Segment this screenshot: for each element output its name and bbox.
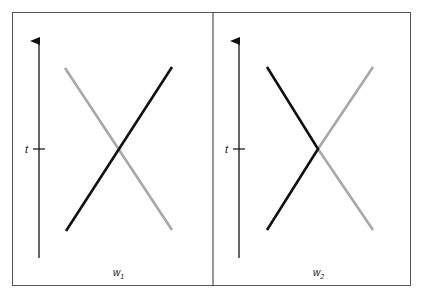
panel-right: t w2 (225, 41, 373, 280)
time-axis-label: t (25, 143, 29, 155)
panel-label-w2: w2 (313, 267, 324, 280)
outer-frame (13, 13, 411, 286)
panel-left: t w1 (25, 41, 172, 280)
panel-label-w1: w1 (113, 267, 124, 280)
time-axis-label: t (225, 143, 229, 155)
diagram-canvas: t w1 t w2 (0, 0, 423, 297)
black-worldline (267, 67, 318, 230)
gray-worldline (318, 67, 373, 230)
